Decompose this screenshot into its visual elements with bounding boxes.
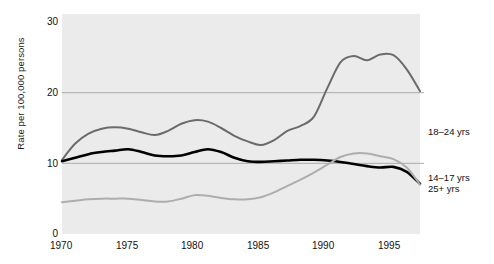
plot-canvas (0, 0, 494, 264)
chart-figure: Rate per 100,000 persons 30 20 10 0 1970… (0, 0, 494, 264)
plot-background (62, 14, 420, 234)
